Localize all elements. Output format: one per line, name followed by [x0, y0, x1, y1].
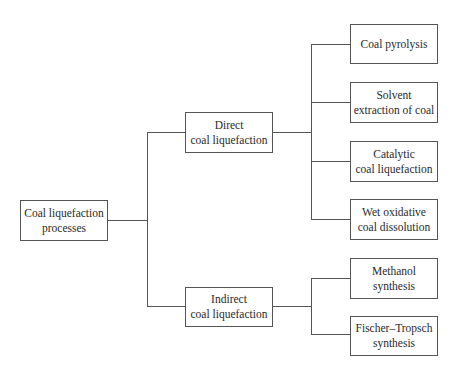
wet-oxidative-label-line1: Wet oxidative	[362, 205, 426, 220]
connector-direct-out	[273, 132, 311, 133]
connector-to-coal-pyrolysis	[311, 44, 350, 45]
direct-label-line2: coal liquefaction	[191, 133, 268, 148]
root-label-line2: processes	[42, 221, 86, 236]
direct-label-line1: Direct	[215, 118, 244, 133]
catalytic-label-line1: Catalytic	[373, 147, 415, 162]
node-wet-oxidative-dissolution: Wet oxidative coal dissolution	[350, 199, 438, 240]
connector-to-direct	[147, 132, 185, 133]
coal-pyrolysis-label: Coal pyrolysis	[361, 37, 428, 52]
connector-indirect-out	[273, 306, 311, 307]
node-methanol-synthesis: Methanol synthesis	[350, 258, 438, 299]
connector-to-fischer-tropsch	[311, 334, 350, 335]
node-coal-pyrolysis: Coal pyrolysis	[350, 24, 438, 64]
wet-oxidative-label-line2: coal dissolution	[358, 220, 431, 235]
solvent-label-line2: extraction of coal	[354, 103, 434, 118]
methanol-label-line1: Methanol	[372, 264, 416, 279]
node-solvent-extraction: Solvent extraction of coal	[350, 82, 438, 123]
indirect-label-line1: Indirect	[211, 292, 247, 307]
connector-to-indirect	[147, 306, 185, 307]
node-catalytic-coal-liquefaction: Catalytic coal liquefaction	[350, 141, 438, 182]
connector-direct-vertical	[311, 44, 312, 220]
fischer-tropsch-label-line1: Fischer–Tropsch	[356, 321, 433, 336]
fischer-tropsch-label-line2: synthesis	[373, 336, 415, 351]
methanol-label-line2: synthesis	[373, 279, 415, 294]
connector-root	[108, 220, 147, 221]
solvent-label-line1: Solvent	[376, 88, 411, 103]
node-indirect-coal-liquefaction: Indirect coal liquefaction	[185, 287, 273, 327]
connector-root-vertical	[147, 132, 148, 307]
connector-to-solvent-extraction	[311, 102, 350, 103]
root-node-coal-liquefaction-processes: Coal liquefaction processes	[20, 200, 108, 241]
node-direct-coal-liquefaction: Direct coal liquefaction	[185, 112, 273, 153]
connector-to-catalytic	[311, 161, 350, 162]
connector-indirect-vertical	[311, 278, 312, 335]
indirect-label-line2: coal liquefaction	[191, 307, 268, 322]
catalytic-label-line2: coal liquefaction	[356, 162, 433, 177]
connector-to-methanol	[311, 278, 350, 279]
node-fischer-tropsch-synthesis: Fischer–Tropsch synthesis	[350, 316, 438, 356]
connector-to-wet-oxidative	[311, 219, 350, 220]
root-label-line1: Coal liquefaction	[24, 206, 104, 221]
